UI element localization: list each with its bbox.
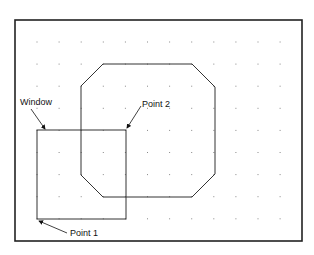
grid-dot xyxy=(59,174,60,175)
grid-dot xyxy=(59,152,60,153)
grid-dot xyxy=(213,196,214,197)
grid-dot xyxy=(191,174,192,175)
grid-dot xyxy=(147,174,148,175)
grid-dot xyxy=(235,42,236,43)
drawing-canvas: Window Point 2 Point 1 xyxy=(0,0,314,255)
grid-dot xyxy=(235,196,236,197)
grid-dot xyxy=(280,196,281,197)
grid-dot xyxy=(235,218,236,219)
grid-dot xyxy=(125,42,126,43)
point1-label: Point 1 xyxy=(70,228,98,238)
grid-dot xyxy=(258,152,259,153)
grid-dot xyxy=(169,152,170,153)
grid-dot xyxy=(125,86,126,87)
grid-dot xyxy=(37,86,38,87)
grid-dot xyxy=(37,42,38,43)
grid-dot xyxy=(213,130,214,131)
point2-label: Point 2 xyxy=(142,99,170,109)
grid-dot xyxy=(59,42,60,43)
grid-dot xyxy=(258,174,259,175)
grid-dot xyxy=(258,218,259,219)
grid-dot xyxy=(103,174,104,175)
grid-dot xyxy=(258,130,259,131)
grid-dot xyxy=(169,130,170,131)
grid-dot xyxy=(258,108,259,109)
grid-dot xyxy=(147,218,148,219)
grid-dot xyxy=(81,196,82,197)
grid-dot xyxy=(191,86,192,87)
grid-dot xyxy=(37,64,38,65)
grid-dot xyxy=(213,64,214,65)
grid-dot xyxy=(258,64,259,65)
grid-dot xyxy=(147,130,148,131)
grid-dot xyxy=(235,108,236,109)
grid-dot xyxy=(258,42,259,43)
grid-dot xyxy=(59,108,60,109)
grid-dot xyxy=(191,108,192,109)
grid-dot xyxy=(280,108,281,109)
grid-dot xyxy=(103,42,104,43)
grid-dot xyxy=(280,64,281,65)
window-label: Window xyxy=(20,97,53,107)
grid-dot xyxy=(169,174,170,175)
grid-dot xyxy=(103,86,104,87)
grid-dot xyxy=(258,196,259,197)
grid-dot xyxy=(280,218,281,219)
grid-dot xyxy=(213,218,214,219)
grid-dot xyxy=(103,152,104,153)
grid-dot xyxy=(59,196,60,197)
grid-dot xyxy=(235,152,236,153)
grid-dot xyxy=(235,174,236,175)
grid-dot xyxy=(81,42,82,43)
grid-dot xyxy=(191,218,192,219)
grid-dot xyxy=(147,86,148,87)
grid-dot xyxy=(103,108,104,109)
grid-dot xyxy=(191,42,192,43)
grid-dot xyxy=(280,130,281,131)
grid-dot xyxy=(258,86,259,87)
grid-dot xyxy=(191,152,192,153)
grid-dot xyxy=(235,130,236,131)
grid-dot xyxy=(191,130,192,131)
grid-dot xyxy=(59,86,60,87)
grid-dot xyxy=(280,174,281,175)
grid-dot xyxy=(280,152,281,153)
grid-dot xyxy=(147,42,148,43)
grid-dot xyxy=(147,152,148,153)
grid-dot xyxy=(169,42,170,43)
grid-dot xyxy=(235,64,236,65)
grid-dot xyxy=(59,64,60,65)
grid-dot xyxy=(213,152,214,153)
grid-dot xyxy=(280,42,281,43)
grid-dot xyxy=(235,86,236,87)
grid-dot xyxy=(125,108,126,109)
grid-dot xyxy=(37,108,38,109)
grid-dot xyxy=(213,42,214,43)
grid-dot xyxy=(81,64,82,65)
grid-dot xyxy=(169,218,170,219)
grid-dot xyxy=(280,86,281,87)
grid-dot xyxy=(213,108,214,109)
grid-dot xyxy=(169,86,170,87)
